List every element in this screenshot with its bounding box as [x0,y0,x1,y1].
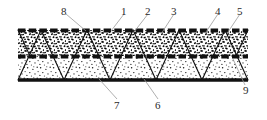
callout-label-3: 3 [171,6,177,17]
callout-label-4: 4 [215,6,221,17]
callout-label-7: 7 [114,100,120,111]
lower-light-fill [18,56,248,80]
leader-7 [99,79,117,99]
figure-root: 8 1 2 3 4 5 9 7 6 [0,0,267,120]
callout-label-9: 9 [243,85,249,96]
callout-label-2: 2 [145,6,151,17]
callout-label-8: 8 [61,6,67,17]
leader-6 [144,79,158,99]
callout-label-5: 5 [237,6,243,17]
callout-label-6: 6 [155,100,161,111]
upper-dense-fill [18,30,248,56]
callout-label-1: 1 [121,6,127,17]
diagram-canvas [0,0,267,120]
